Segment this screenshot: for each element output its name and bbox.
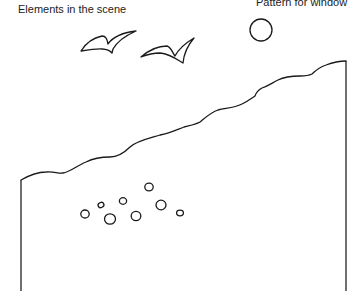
bird-icon [141, 38, 194, 63]
pebble-icon [81, 210, 89, 218]
scene-drawing [0, 0, 361, 302]
hill-ridge-line [21, 61, 346, 180]
pebble-group [81, 183, 184, 224]
pebble-icon [177, 210, 184, 216]
pebble-icon [145, 183, 153, 191]
sun-icon [250, 19, 272, 41]
pebble-icon [131, 211, 141, 220]
pebble-icon [156, 200, 166, 210]
pebble-icon [119, 198, 126, 205]
pebble-icon [97, 201, 105, 208]
pebble-icon [105, 214, 116, 224]
bird-icon [81, 31, 136, 53]
